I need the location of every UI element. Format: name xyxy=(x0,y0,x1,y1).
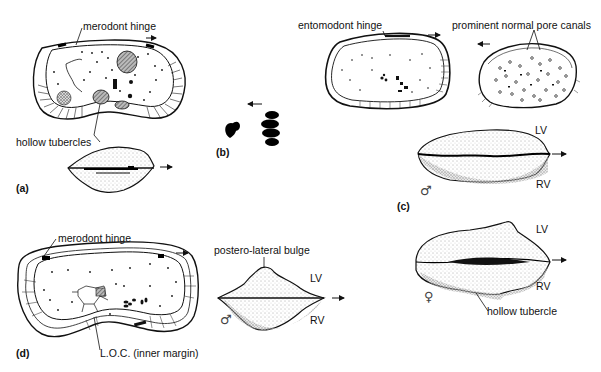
panel-c-male-dorsal xyxy=(418,130,566,184)
panel-label-d: (d) xyxy=(16,347,29,359)
label-d-merodont-hinge: merodont hinge xyxy=(58,232,131,244)
panel-d-male-dorsal xyxy=(218,257,344,330)
panel-b-muscle-scars xyxy=(225,104,280,146)
male-symbol-d: ♂ xyxy=(220,312,232,327)
label-d-rv: RV xyxy=(310,314,324,326)
panel-label-a: (a) xyxy=(16,182,29,194)
panel-label-b: (b) xyxy=(216,146,229,158)
label-female-lv: LV xyxy=(536,223,548,235)
panel-label-c: (c) xyxy=(397,200,410,212)
male-symbol-c: ♂ xyxy=(420,183,432,198)
panel-c-exterior-valve xyxy=(478,30,580,108)
panel-c-female-dorsal xyxy=(416,222,566,311)
label-a-merodont-hinge: merodont hinge xyxy=(83,20,156,32)
female-symbol: ♀ xyxy=(424,289,434,304)
label-hollow-tubercle: hollow tubercle xyxy=(487,305,557,317)
label-d-loc: L.O.C. (inner margin) xyxy=(100,347,199,359)
panel-a-dorsal-view xyxy=(68,147,172,192)
label-c-lv: LV xyxy=(535,124,547,136)
panel-d-interior-valve xyxy=(18,239,199,350)
ostracod-morphology-figure: merodont hinge hollow tubercles (a) (b) … xyxy=(0,0,601,372)
label-c-rv: RV xyxy=(536,178,550,190)
label-female-rv: RV xyxy=(536,280,550,292)
panel-a-interior-valve xyxy=(33,28,185,142)
label-d-lv: LV xyxy=(310,272,322,284)
label-c-pore-canals: prominent normal pore canals xyxy=(452,19,591,31)
label-a-hollow-tubercles: hollow tubercles xyxy=(16,136,91,148)
label-d-postero-lateral-bulge: postero-lateral bulge xyxy=(214,244,310,256)
panel-c-interior-valve xyxy=(326,31,450,109)
label-c-entomodont-hinge: entomodont hinge xyxy=(298,19,382,31)
